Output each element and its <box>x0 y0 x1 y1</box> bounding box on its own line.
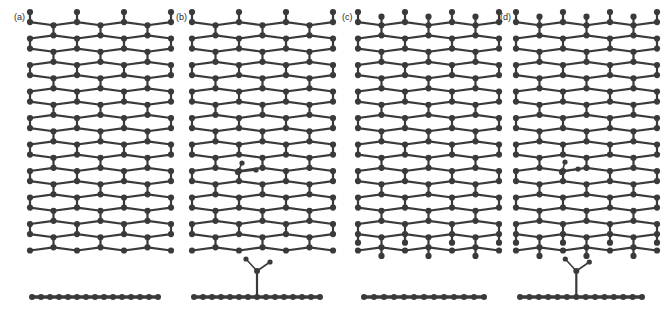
lattice-bond <box>77 181 101 184</box>
sheet-profile-atom <box>47 294 53 300</box>
lattice-atom <box>50 85 56 91</box>
lattice-bond <box>77 62 101 65</box>
lattice-atom <box>259 181 265 187</box>
lattice-atom <box>378 128 384 134</box>
lattice-atom <box>449 141 455 147</box>
lattice-atom <box>168 88 174 94</box>
lattice-atom <box>330 35 336 41</box>
sheet-profile-atom <box>461 294 467 300</box>
lattice-bond <box>540 22 564 25</box>
lattice-bond <box>148 247 172 250</box>
lattice-atom <box>259 22 265 28</box>
lattice-atom <box>189 115 195 121</box>
lattice-atom <box>97 112 103 118</box>
lattice-bond <box>148 88 172 91</box>
panel-label-b: (b) <box>176 12 187 22</box>
lattice-bond <box>452 234 476 237</box>
lattice-atom <box>607 35 613 41</box>
sheet-profile-with-adsorbate <box>517 256 645 300</box>
lattice-atom <box>144 244 150 250</box>
lattice-bond <box>634 102 658 105</box>
lattice-atom <box>378 181 384 187</box>
lattice-bond <box>77 234 101 237</box>
lattice-atom <box>496 168 502 174</box>
lattice-atom <box>74 125 80 131</box>
lattice-bond <box>286 168 310 171</box>
lattice-atom <box>283 247 289 253</box>
molecular-structure-figure: (a)(b)(c)(d) <box>0 0 665 324</box>
lattice-atom <box>472 75 478 81</box>
lattice-atom <box>259 59 265 65</box>
lattice-atom <box>212 155 218 161</box>
adsorbate-anchor-atom <box>235 169 241 175</box>
lattice-bond <box>563 62 587 65</box>
lattice-atom <box>306 59 312 65</box>
lattice-bond <box>563 234 587 237</box>
lattice-bond <box>30 247 54 250</box>
lattice-bond <box>30 181 54 184</box>
lattice-bond <box>148 75 172 78</box>
lattice-bond <box>634 115 658 118</box>
sheet-profile-atom <box>630 294 636 300</box>
lattice-atom <box>144 218 150 224</box>
lattice-atom <box>355 45 361 51</box>
lattice-bond <box>587 208 611 211</box>
edge-atom <box>425 253 431 259</box>
lattice-atom <box>355 19 361 25</box>
lattice-bond <box>192 168 216 171</box>
lattice-bond <box>77 208 101 211</box>
lattice-atom <box>330 231 336 237</box>
lattice-atom <box>168 98 174 104</box>
lattice-atom <box>607 231 613 237</box>
pristine-lattice-armchair <box>27 9 174 254</box>
lattice-bond <box>239 88 263 91</box>
lattice-atom <box>378 208 384 214</box>
sheet-profile-atom <box>227 294 233 300</box>
lattice-bond <box>516 49 540 52</box>
lattice-bond <box>634 234 658 237</box>
sheet-profile-atom <box>236 294 242 300</box>
lattice-bond <box>124 168 148 171</box>
lattice-atom <box>654 72 660 78</box>
lattice-atom <box>513 151 519 157</box>
lattice-bond <box>634 208 658 211</box>
lattice-bond <box>124 247 148 250</box>
lattice-bond <box>587 88 611 91</box>
lattice-atom <box>402 151 408 157</box>
lattice-bond <box>124 115 148 118</box>
panel-c: (c) <box>342 9 502 300</box>
lattice-atom <box>168 19 174 25</box>
lattice-atom <box>306 32 312 38</box>
lattice-bond <box>429 234 453 237</box>
lattice-bond <box>405 128 429 131</box>
lattice-bond <box>124 181 148 184</box>
lattice-atom <box>536 165 542 171</box>
lattice-atom <box>425 244 431 250</box>
lattice-atom <box>306 234 312 240</box>
lattice-bond <box>405 22 429 25</box>
lattice-bond <box>358 247 382 250</box>
sheet-profile-atom <box>381 294 387 300</box>
lattice-atom <box>50 208 56 214</box>
lattice-atom <box>496 231 502 237</box>
lattice-atom <box>121 62 127 68</box>
lattice-bond <box>563 102 587 105</box>
lattice-atom <box>121 194 127 200</box>
lattice-atom <box>425 165 431 171</box>
lattice-atom <box>168 141 174 147</box>
lattice-atom <box>121 9 127 15</box>
lattice-atom <box>654 62 660 68</box>
lattice-bond <box>382 35 406 38</box>
lattice-atom <box>259 165 265 171</box>
lattice-atom <box>449 35 455 41</box>
lattice-bond <box>452 62 476 65</box>
lattice-bond <box>148 208 172 211</box>
lattice-atom <box>536 218 542 224</box>
lattice-bond <box>405 208 429 211</box>
lattice-atom <box>306 155 312 161</box>
lattice-bond <box>587 75 611 78</box>
lattice-atom <box>283 62 289 68</box>
lattice-bond <box>54 155 78 158</box>
lattice-bond <box>516 128 540 131</box>
lattice-atom <box>513 9 519 15</box>
